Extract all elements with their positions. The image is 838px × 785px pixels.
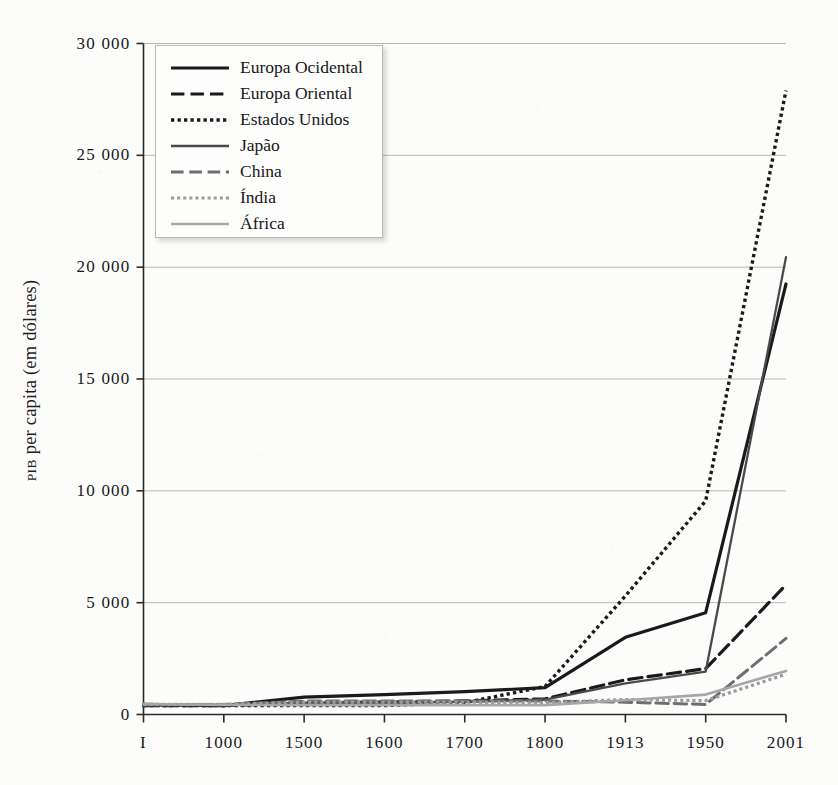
legend-swatch-china-icon <box>171 165 229 179</box>
y-tick-label: 15 000 <box>0 369 131 389</box>
chart-legend: Europa OcidentalEuropa OrientalEstados U… <box>155 45 383 238</box>
legend-item-ndia[interactable]: Índia <box>156 185 382 211</box>
x-tick-label: I <box>140 733 147 753</box>
x-tick-label: 1500 <box>285 733 323 753</box>
y-tick-marks-group <box>137 44 144 715</box>
y-tick-label: 5 000 <box>0 593 131 613</box>
y-tick-label: 10 000 <box>0 481 131 501</box>
x-tick-label: 1913 <box>606 733 644 753</box>
line-chart-plot <box>0 0 838 785</box>
x-tick-label: 1800 <box>526 733 564 753</box>
x-tick-label: 2001 <box>767 733 805 753</box>
legend-item-europa-oriental[interactable]: Europa Oriental <box>156 81 382 107</box>
legend-label: Europa Oriental <box>240 85 352 103</box>
legend-label: Europa Ocidental <box>240 59 363 77</box>
x-tick-label: 1000 <box>205 733 243 753</box>
x-tick-label: 1700 <box>446 733 484 753</box>
legend-item-estados-unidos[interactable]: Estados Unidos <box>156 107 382 133</box>
chart-page: PIB per capita (em dólares) 05 00010 000… <box>0 0 838 785</box>
legend-item-china[interactable]: China <box>156 159 382 185</box>
legend-item-jap-o[interactable]: Japão <box>156 133 382 159</box>
legend-label: China <box>240 163 282 181</box>
x-tick-label: 1950 <box>686 733 724 753</box>
legend-label: África <box>240 215 285 233</box>
legend-label: Japão <box>240 137 280 155</box>
series-line-europa-ocidental <box>144 284 787 706</box>
x-tick-marks-group <box>144 715 787 723</box>
legend-label: Índia <box>240 189 276 207</box>
legend-swatch-frica-icon <box>171 217 229 231</box>
legend-swatch-europa-oriental-icon <box>171 87 229 101</box>
y-tick-label: 20 000 <box>0 257 131 277</box>
legend-label: Estados Unidos <box>240 111 349 129</box>
legend-swatch-europa-ocidental-icon <box>171 61 229 75</box>
legend-swatch-estados-unidos-icon <box>171 113 229 127</box>
y-tick-label: 0 <box>0 705 131 725</box>
y-tick-label: 30 000 <box>0 34 131 54</box>
x-tick-label: 1600 <box>365 733 403 753</box>
legend-item-europa-ocidental[interactable]: Europa Ocidental <box>156 55 382 81</box>
legend-swatch-jap-o-icon <box>171 139 229 153</box>
legend-item-frica[interactable]: África <box>156 211 382 237</box>
series-line-jap-o <box>144 257 787 705</box>
legend-swatch-ndia-icon <box>171 191 229 205</box>
y-tick-label: 25 000 <box>0 145 131 165</box>
